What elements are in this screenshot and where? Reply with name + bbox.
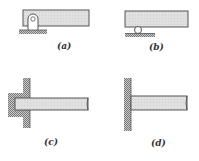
label-b: (b)	[149, 42, 164, 52]
beam-c	[15, 98, 88, 110]
ground-a	[19, 30, 47, 34]
beam-b	[125, 11, 188, 27]
panel-a: (a)	[19, 10, 89, 51]
pin-support-icon	[28, 14, 38, 30]
wall-d	[124, 78, 131, 131]
beam-supports-diagram: (a) (b) (c) (d)	[0, 0, 199, 161]
panel-b: (b)	[125, 11, 188, 52]
ground-b	[125, 34, 155, 38]
panel-c: (c)	[8, 78, 88, 147]
roller-icon	[135, 27, 142, 34]
pin-icon	[31, 17, 35, 21]
panel-d: (d)	[124, 78, 187, 148]
label-d: (d)	[151, 138, 166, 148]
label-a: (a)	[57, 41, 71, 51]
label-c: (c)	[44, 137, 58, 147]
beam-d	[131, 96, 187, 110]
